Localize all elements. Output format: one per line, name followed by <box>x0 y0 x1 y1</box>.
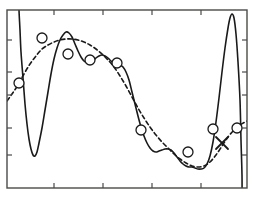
data-point-9 <box>232 123 242 133</box>
data-point-1 <box>14 78 24 88</box>
data-point-4 <box>85 55 95 65</box>
figure-container <box>0 0 254 201</box>
data-point-3 <box>63 49 73 59</box>
data-point-8 <box>208 124 218 134</box>
data-point-6 <box>136 125 146 135</box>
data-point-2 <box>37 33 47 43</box>
data-point-5 <box>112 58 122 68</box>
plot-canvas <box>0 0 254 201</box>
data-point-7 <box>183 147 193 157</box>
